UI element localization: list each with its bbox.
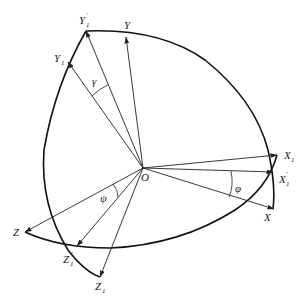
vector-x — [143, 168, 274, 209]
vector-z1 — [100, 168, 143, 277]
label-x1-prime-mark: ′ — [286, 170, 288, 178]
vector-z1-prime — [77, 168, 143, 246]
arc-bottom — [25, 155, 277, 248]
label-z1-sub: 1 — [102, 287, 106, 295]
label-z1-prime: Z — [63, 253, 70, 265]
label-x1-prime-sub: 1 — [286, 180, 290, 188]
label-x: X — [263, 211, 272, 223]
vector-x1-prime — [143, 168, 273, 172]
vector-x1 — [143, 155, 277, 168]
label-y: Y — [124, 19, 132, 31]
label-y1-prime-sub: 1 — [86, 21, 90, 29]
label-psi: ψ — [100, 192, 107, 204]
label-x1-sub: 1 — [291, 156, 295, 164]
angle-arc-psi — [113, 184, 118, 197]
label-gamma: γ — [92, 75, 97, 87]
label-origin: O — [141, 171, 149, 183]
label-y1-sub: 1 — [61, 59, 65, 67]
label-z1-prime-sub: 1 — [70, 260, 74, 268]
vector-z — [25, 168, 143, 232]
label-z1: Z — [95, 280, 102, 292]
label-z: Z — [13, 226, 20, 238]
label-y1-prime-mark: ′ — [86, 11, 88, 19]
label-phi: φ — [235, 182, 241, 194]
arc-top-right — [86, 31, 274, 209]
rotation-diagram: O Y 1 ′ Y Y 1 X 1 X 1 ′ X Z Z 1 ′ Z 1 γ … — [0, 0, 304, 299]
angle-arc-phi — [229, 171, 232, 197]
